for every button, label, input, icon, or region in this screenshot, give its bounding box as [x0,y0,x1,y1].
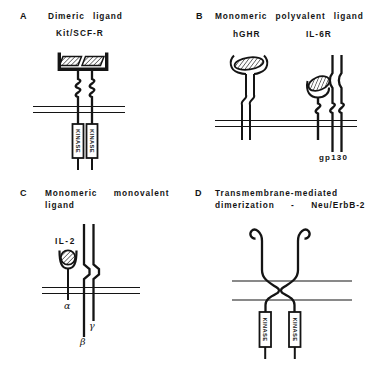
il2-ligand-hatched [61,250,75,264]
panel-d-letter: D [195,189,202,198]
beta-chain-label: β [80,337,86,347]
il6r-receptor-stem [316,98,321,141]
il2-label: IL-2 [55,237,76,245]
gp130-chain [330,55,335,152]
dimeric-ligand-hatched [82,57,104,66]
panel-d-title-line2: dimerization - Neu/ErbB-2 [215,201,365,209]
panel-b-letter: B [196,12,203,21]
ghr-receptor-stem [250,74,255,140]
gamma-chain-label: γ [89,321,95,331]
kinase-text: KINASE [262,317,268,341]
panel-c-letter: C [20,189,27,198]
gp130-chain [339,55,344,152]
dimeric-ligand-hatched [60,57,82,66]
figure-canvas: KINASE KINASE [0,0,379,365]
ghr-ligand-hatched [234,56,264,72]
kinase-text: KINASE [89,129,95,153]
ghr-receptor-stem [242,74,247,140]
panel-b-diagram [215,55,357,152]
panel-a-title: Dimeric ligand [48,12,123,20]
panel-c-title-line2: ligand [45,201,75,209]
kinase-text: KINASE [75,129,81,153]
gamma-chain [94,224,100,321]
receptor-stem [90,69,95,124]
alpha-chain-label: α [64,301,70,311]
gp130-label: gp130 [319,154,348,162]
kinase-text: KINASE [292,317,298,341]
panel-a-subtitle: Kit/SCF-R [56,29,104,37]
receptor-label-hghr: hGHR [233,30,261,38]
panel-a-letter: A [20,12,27,21]
panel-b-title: Monomeric polyvalent ligand [215,12,364,20]
panel-d-diagram: KINASE KINASE [232,230,352,359]
figure-page: KINASE KINASE [0,0,379,365]
panel-d-title-line1: Transmembrane-mediated [215,189,338,197]
receptor-label-il6r: IL-6R [306,30,332,38]
receptor-stem [76,69,81,124]
panel-c-title-line1: Monomeric monovalent [45,189,169,197]
panel-a-diagram: KINASE KINASE [33,53,125,171]
